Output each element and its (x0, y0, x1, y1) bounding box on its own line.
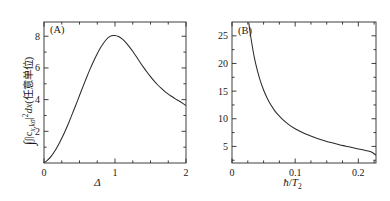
delta-symbol: Δ (94, 176, 100, 188)
panel-b-x-axis-label: ħ/T2 (195, 176, 390, 191)
data-curve (44, 35, 186, 163)
panel-a-x-axis-label: Δ (0, 176, 195, 188)
panel-a-y-axis-label: ∫∫|cx,kσ|2dx(任意单位) (20, 26, 38, 176)
data-curve (249, 23, 376, 156)
panel-b-plot: 00.10.2510152025(B) (195, 0, 390, 201)
t-subscript: 2 (298, 182, 302, 191)
integral-symbol: ∫ (21, 141, 37, 145)
ylabel-mid: | (23, 117, 34, 119)
plot-frame (44, 22, 186, 163)
figure-container: 0122468(A) ∫∫|cx,kσ|2dx(任意单位) Δ 00.10.25… (0, 0, 390, 201)
ylabel-subscript: x,kσ (28, 119, 37, 131)
ylabel-prefix: ∫|c (23, 132, 34, 142)
panel-a: 0122468(A) ∫∫|cx,kσ|2dx(任意单位) Δ (0, 0, 195, 201)
y-tick-label: 25 (218, 30, 228, 41)
panel-tag-label: (A) (50, 24, 65, 36)
y-tick-label: 10 (218, 113, 228, 124)
y-tick-label: 15 (218, 86, 228, 97)
y-tick-label: 5 (223, 141, 228, 152)
ylabel-dx: dx (23, 104, 34, 114)
ylabel-units: (任意单位) (23, 57, 34, 104)
y-tick-label: 20 (218, 58, 228, 69)
panel-b: 00.10.2510152025(B) ħ/T2 (195, 0, 390, 201)
plot-frame (232, 22, 376, 163)
ylabel-exponent: 2 (21, 114, 30, 118)
